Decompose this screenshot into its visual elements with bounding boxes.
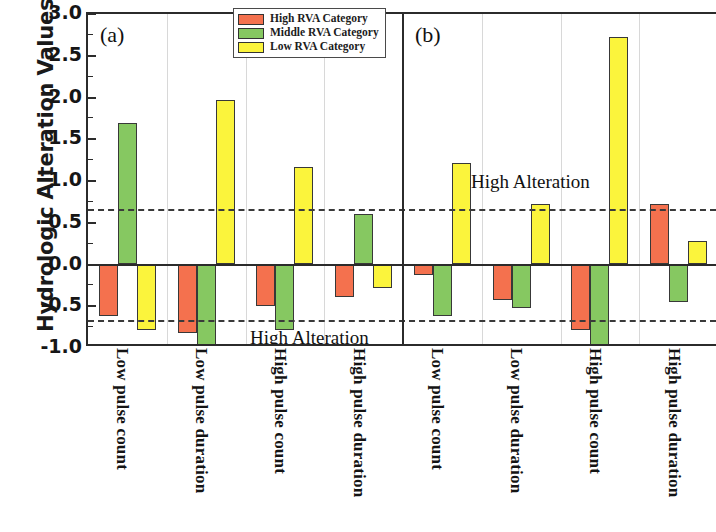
bar xyxy=(335,265,354,298)
x-category-label: Low pulse count xyxy=(427,348,447,470)
group-separator-gridline xyxy=(639,14,640,344)
bar xyxy=(669,265,688,303)
panel-tag: (b) xyxy=(415,22,441,48)
panel-divider xyxy=(402,14,404,344)
bar xyxy=(688,241,707,264)
bar xyxy=(493,265,512,301)
group-separator-gridline xyxy=(167,14,168,344)
y-tick-label: 0.0 xyxy=(48,252,82,274)
y-axis-minor-tick xyxy=(88,326,93,327)
legend-swatch-high-rva xyxy=(238,14,264,25)
bar xyxy=(433,265,452,317)
bar xyxy=(178,265,197,333)
bar xyxy=(452,163,471,265)
x-category-label: High pulse duration xyxy=(664,348,684,497)
bar xyxy=(99,265,118,317)
y-axis-major-tick xyxy=(88,180,96,182)
legend-item: High RVA Category xyxy=(238,12,379,26)
legend-item: Middle RVA Category xyxy=(238,26,379,40)
y-tick-label: 1.5 xyxy=(48,126,82,148)
bar xyxy=(354,214,373,264)
bar xyxy=(118,123,137,265)
annotation-high-alteration-upper: High Alteration xyxy=(471,171,590,193)
bar xyxy=(373,265,392,288)
y-tick-label: -1.0 xyxy=(40,335,82,357)
y-axis-major-tick xyxy=(88,97,96,99)
x-category-label: Low pulse duration xyxy=(191,348,211,493)
x-category-label: Low pulse duration xyxy=(506,348,526,493)
x-category-label: High pulse count xyxy=(585,348,605,474)
y-axis-major-tick xyxy=(88,55,96,57)
y-axis-major-tick xyxy=(88,305,96,307)
bar xyxy=(650,204,669,264)
legend-swatch-low-rva xyxy=(238,42,264,53)
group-separator-gridline xyxy=(246,14,247,344)
bar xyxy=(216,100,235,264)
y-tick-label: -0.5 xyxy=(40,293,82,315)
y-tick-label: 0.5 xyxy=(48,210,82,232)
y-axis-major-tick xyxy=(88,13,96,15)
y-axis-major-tick xyxy=(88,222,96,224)
bar xyxy=(512,265,531,308)
panel-tag: (a) xyxy=(100,22,124,48)
bar xyxy=(414,265,433,275)
legend-label-middle-rva: Middle RVA Category xyxy=(270,27,379,39)
x-category-label: Low pulse count xyxy=(112,348,132,470)
y-axis-minor-tick xyxy=(88,34,93,35)
y-axis-major-tick xyxy=(88,138,96,140)
x-axis-category-labels: Low pulse countLow pulse durationHigh pu… xyxy=(86,348,716,532)
bar xyxy=(256,265,275,307)
legend-label-high-rva: High RVA Category xyxy=(270,13,368,25)
plot-area: (a)(b)High AlterationHigh Alteration xyxy=(86,12,716,346)
group-separator-gridline xyxy=(324,14,325,344)
x-category-label: High pulse count xyxy=(270,348,290,474)
y-axis-minor-tick xyxy=(88,201,93,202)
legend-swatch-middle-rva xyxy=(238,28,264,39)
y-axis-tick-labels: 3.02.52.01.51.00.50.0-0.5-1.0 xyxy=(30,0,82,532)
y-axis-minor-tick xyxy=(88,117,93,118)
legend-label-low-rva: Low RVA Category xyxy=(270,41,365,53)
bar xyxy=(197,265,216,347)
legend: High RVA Category Middle RVA Category Lo… xyxy=(233,8,386,58)
bar xyxy=(294,167,313,265)
x-category-label: High pulse duration xyxy=(349,348,369,497)
bar xyxy=(531,204,550,264)
y-axis-minor-tick xyxy=(88,76,93,77)
y-tick-label: 2.0 xyxy=(48,85,82,107)
y-tick-label: 1.0 xyxy=(48,168,82,190)
y-tick-label: 3.0 xyxy=(48,1,82,23)
y-axis-minor-tick xyxy=(88,243,93,244)
figure-canvas: Hydrologic Alteration Values 3.02.52.01.… xyxy=(0,0,716,532)
bar xyxy=(609,37,628,265)
annotation-high-alteration-lower: High Alteration xyxy=(250,327,369,346)
legend-item: Low RVA Category xyxy=(238,40,379,54)
bar xyxy=(590,265,609,347)
y-axis-minor-tick xyxy=(88,284,93,285)
y-tick-label: 2.5 xyxy=(48,43,82,65)
y-axis-minor-tick xyxy=(88,159,93,160)
